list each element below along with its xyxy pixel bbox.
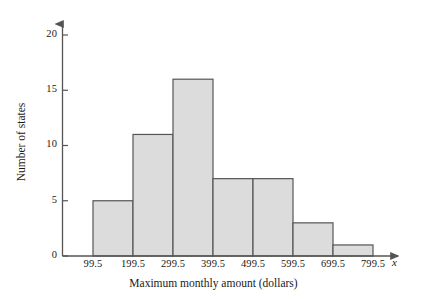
y-tick-label: 20 (33, 28, 57, 39)
histogram-bar (213, 179, 253, 256)
plot-area (0, 0, 427, 299)
y-tick-marks (63, 35, 69, 256)
x-axis-title: Maximum monthly amount (dollars) (0, 277, 427, 289)
histogram-bar (253, 179, 293, 256)
y-tick-label: 5 (33, 194, 57, 205)
histogram-figure: 20 15 10 5 0 99.5 199.5 299.5 399.5 499.… (0, 0, 427, 299)
histogram-bar (133, 134, 173, 256)
histogram-bar (333, 245, 373, 256)
y-tick-label: 15 (33, 83, 57, 94)
x-tick-label: 799.5 (350, 258, 396, 269)
y-tick-label: 10 (33, 138, 57, 149)
y-axis-title: Number of states (15, 82, 27, 202)
histogram-bar (93, 201, 133, 256)
x-variable-label: x (392, 256, 397, 268)
histogram-bar (293, 223, 333, 256)
histogram-bar (173, 79, 213, 256)
bars-group (93, 79, 373, 256)
y-tick-label: 0 (33, 249, 57, 260)
